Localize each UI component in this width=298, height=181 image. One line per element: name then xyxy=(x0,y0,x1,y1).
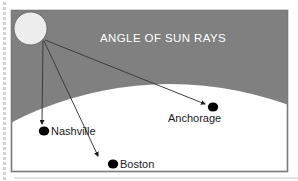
page-title: ANGLE OF SUN RAYS xyxy=(100,32,226,44)
margin-dot xyxy=(3,37,6,40)
margin-dot xyxy=(3,22,6,25)
margin-dot xyxy=(3,52,6,55)
margin-dot xyxy=(3,172,6,175)
margin-dot xyxy=(3,132,6,135)
margin-dot xyxy=(3,72,6,75)
margin-dot xyxy=(3,177,6,180)
margin-dot xyxy=(3,87,6,90)
sun-icon xyxy=(14,12,47,45)
margin-dot xyxy=(3,122,6,125)
margin-dot xyxy=(3,42,6,45)
margin-dot xyxy=(3,7,6,10)
margin-dot xyxy=(3,92,6,95)
margin-dot xyxy=(3,47,6,50)
margin-dot xyxy=(3,77,6,80)
margin-dot xyxy=(3,152,6,155)
left-margin-dotted-rule xyxy=(3,2,6,180)
margin-dot xyxy=(3,62,6,65)
margin-dot xyxy=(3,32,6,35)
margin-dot xyxy=(3,162,6,165)
margin-dot xyxy=(3,107,6,110)
sun-angle-diagram: ANGLE OF SUN RAYS NashvilleBostonAnchora… xyxy=(0,0,298,181)
margin-dot xyxy=(3,127,6,130)
margin-dot xyxy=(3,2,6,5)
margin-dot xyxy=(3,82,6,85)
city-marker-anchorage xyxy=(208,102,218,111)
margin-dot xyxy=(3,117,6,120)
city-label-boston: Boston xyxy=(120,158,154,170)
margin-dot xyxy=(3,137,6,140)
margin-dot xyxy=(3,67,6,70)
margin-dot xyxy=(3,27,6,30)
margin-dot xyxy=(3,112,6,115)
margin-dot xyxy=(3,57,6,60)
city-label-anchorage: Anchorage xyxy=(168,112,221,124)
margin-dot xyxy=(3,157,6,160)
diagram-canvas: ANGLE OF SUN RAYS NashvilleBostonAnchora… xyxy=(0,0,298,181)
city-marker-boston xyxy=(108,159,118,168)
margin-dot xyxy=(3,97,6,100)
margin-dot xyxy=(3,142,6,145)
margin-dot xyxy=(3,12,6,15)
margin-dot xyxy=(3,102,6,105)
margin-dot xyxy=(3,147,6,150)
city-marker-nashville xyxy=(39,126,49,135)
margin-dot xyxy=(3,167,6,170)
city-label-nashville: Nashville xyxy=(51,125,96,137)
margin-dot xyxy=(3,17,6,20)
